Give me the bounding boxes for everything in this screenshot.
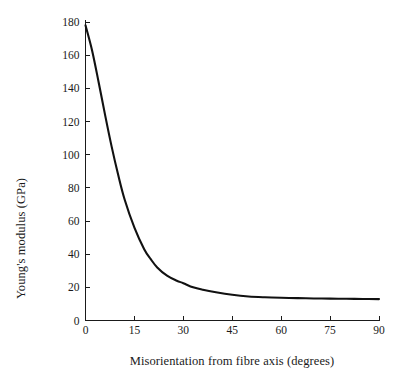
chart-figure: Young's modulus (GPa) Misorientation fro…	[0, 0, 407, 387]
x-tick-label: 75	[324, 324, 336, 336]
y-tick-label: 80	[68, 182, 80, 194]
x-tick-label: 45	[227, 324, 239, 336]
y-tick-label: 120	[62, 116, 80, 128]
x-tick-label: 30	[178, 324, 190, 336]
plot-area: 020406080100120140160180 0153045607590	[0, 0, 407, 387]
x-tick-label: 60	[275, 324, 287, 336]
x-axis-ticks	[86, 316, 380, 321]
y-tick-label: 140	[62, 82, 80, 94]
y-axis-tick-labels: 020406080100120140160180	[62, 16, 80, 327]
y-tick-label: 60	[68, 215, 80, 227]
y-tick-label: 160	[62, 49, 80, 61]
x-axis-tick-labels: 0153045607590	[83, 324, 385, 336]
y-tick-label: 40	[68, 248, 80, 260]
y-tick-label: 20	[68, 281, 80, 293]
x-tick-label: 90	[373, 324, 385, 336]
x-tick-label: 15	[129, 324, 141, 336]
x-tick-label: 0	[83, 324, 89, 336]
y-axis-ticks	[86, 22, 91, 321]
y-tick-label: 0	[74, 315, 80, 327]
data-curve-youngs-modulus	[86, 25, 380, 299]
y-tick-label: 100	[62, 149, 80, 161]
y-tick-label: 180	[62, 16, 80, 28]
